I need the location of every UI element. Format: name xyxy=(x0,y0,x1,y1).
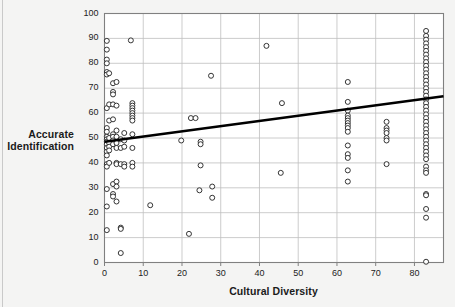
data-point xyxy=(424,157,429,162)
x-tick-label: 60 xyxy=(323,268,351,278)
data-point xyxy=(198,163,203,168)
data-point xyxy=(104,129,109,134)
x-tick-label: 50 xyxy=(284,268,312,278)
y-tick-label: 60 xyxy=(69,107,99,117)
data-point xyxy=(107,160,112,165)
y-tick-label: 0 xyxy=(69,257,99,267)
x-tick-label: 80 xyxy=(400,268,428,278)
chart-figure: Cultural Diversity Accurate Identificati… xyxy=(0,0,455,307)
data-point xyxy=(384,131,389,136)
data-point xyxy=(148,203,153,208)
y-tick-label: 50 xyxy=(69,132,99,142)
data-point xyxy=(114,179,119,184)
data-point xyxy=(384,138,389,143)
data-point xyxy=(111,117,116,122)
y-axis-title-line1: Accurate xyxy=(28,128,74,140)
data-point xyxy=(424,170,429,175)
y-tick-label: 80 xyxy=(69,57,99,67)
data-point xyxy=(104,153,109,158)
data-point xyxy=(118,226,123,231)
data-point xyxy=(210,195,215,200)
data-point xyxy=(114,199,119,204)
data-point xyxy=(130,118,135,123)
data-point xyxy=(104,47,109,52)
data-point xyxy=(424,193,429,198)
data-point xyxy=(104,38,109,43)
data-point xyxy=(424,215,429,220)
y-tick-label: 40 xyxy=(69,157,99,167)
data-point xyxy=(107,71,112,76)
data-point xyxy=(424,206,429,211)
data-point xyxy=(186,231,191,236)
data-point xyxy=(424,259,429,264)
data-point xyxy=(130,145,135,150)
data-point xyxy=(384,162,389,167)
y-axis-title: Accurate Identification xyxy=(6,128,74,152)
data-point xyxy=(104,204,109,209)
data-point xyxy=(345,79,350,84)
data-point xyxy=(345,143,350,148)
data-point xyxy=(264,43,269,48)
x-tick-label: 70 xyxy=(362,268,390,278)
x-tick-label: 30 xyxy=(207,268,235,278)
data-point xyxy=(278,170,283,175)
data-point xyxy=(193,116,198,121)
data-point xyxy=(118,251,123,256)
data-point xyxy=(424,28,429,33)
data-point xyxy=(122,164,127,169)
data-point xyxy=(104,61,109,66)
data-point xyxy=(128,38,133,43)
y-tick-label: 90 xyxy=(69,32,99,42)
data-point xyxy=(122,144,127,149)
data-point xyxy=(104,228,109,233)
y-tick-label: 70 xyxy=(69,82,99,92)
data-point xyxy=(345,168,350,173)
data-point xyxy=(130,132,135,137)
y-tick-label: 30 xyxy=(69,182,99,192)
data-point xyxy=(114,79,119,84)
x-axis-title: Cultural Diversity xyxy=(104,285,443,297)
data-point xyxy=(104,187,109,192)
data-point xyxy=(279,101,284,106)
data-point xyxy=(179,138,184,143)
data-point xyxy=(198,142,203,147)
data-point xyxy=(210,184,215,189)
x-tick-label: 10 xyxy=(129,268,157,278)
y-axis-title-line2: Identification xyxy=(7,140,74,152)
data-point xyxy=(345,99,350,104)
data-point xyxy=(114,128,119,133)
x-tick-label: 40 xyxy=(245,268,273,278)
data-point xyxy=(107,148,112,153)
data-point xyxy=(114,103,119,108)
data-point xyxy=(130,164,135,169)
data-point xyxy=(345,129,350,134)
data-point xyxy=(209,73,214,78)
data-point xyxy=(197,188,202,193)
data-point xyxy=(111,194,116,199)
data-point xyxy=(122,131,127,136)
y-tick-label: 100 xyxy=(69,8,99,18)
x-tick-label: 0 xyxy=(91,268,119,278)
data-point xyxy=(345,155,350,160)
y-tick-label: 20 xyxy=(69,207,99,217)
x-tick-label: 20 xyxy=(168,268,196,278)
data-point xyxy=(114,184,119,189)
data-point xyxy=(345,179,350,184)
data-point xyxy=(111,92,116,97)
y-tick-label: 10 xyxy=(69,232,99,242)
data-point xyxy=(384,119,389,124)
